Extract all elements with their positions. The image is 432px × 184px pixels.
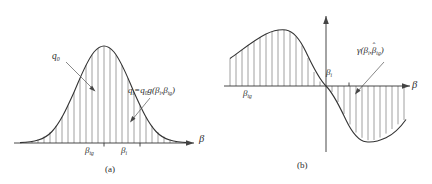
leader-q0 [66, 62, 96, 92]
label-gamma-function: γ(βi,ˆβtg) [357, 46, 384, 56]
label-q0: q0 [52, 52, 60, 63]
hat-accent: ˆ [373, 43, 376, 51]
panel-b: γ(βi,ˆβtg) βtg βi β (b) [216, 0, 432, 184]
axis-label-beta-b: β [412, 80, 417, 91]
label-beta-i-b: βi [326, 68, 332, 78]
label-qi-formula: qi=q0g(βi,βtg) [128, 86, 175, 96]
beta-hat: ˆβ [372, 46, 376, 55]
label-beta-tg-a: βtg [85, 146, 94, 156]
panel-a: q0 qi=q0g(βi,βtg) βtg βi β (a) [0, 0, 216, 184]
leader-gamma [355, 62, 384, 95]
x-axis-b [224, 83, 410, 89]
label-beta-tg-b: βtg [243, 89, 252, 99]
caption-a: (a) [105, 164, 115, 174]
panel-a-plot [0, 0, 216, 184]
label-beta-i-a: βi [121, 146, 127, 156]
hatch-group-b-positive [230, 30, 320, 87]
caption-b: (b) [297, 160, 308, 170]
axis-label-beta-a: β [199, 134, 204, 145]
figure-container: q0 qi=q0g(βi,βtg) βtg βi β (a) [0, 0, 432, 184]
